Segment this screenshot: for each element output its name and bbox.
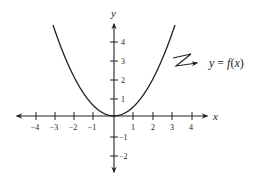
y-tick-label: 3 — [121, 57, 125, 66]
y-tick-label: −1 — [119, 133, 128, 142]
x-tick-label: 4 — [189, 123, 193, 132]
y-axis: 4 3 2 1 −1 −2 y — [110, 7, 128, 172]
x-axis-label: x — [212, 110, 218, 122]
y-tick-label: 1 — [121, 95, 125, 104]
function-graph: −4 −3 −2 −1 1 2 3 4 x 4 — [0, 0, 261, 181]
x-tick-label: 3 — [170, 123, 174, 132]
x-tick-label: 2 — [151, 123, 155, 132]
x-tick-label: 1 — [131, 123, 135, 132]
x-tick-label: −4 — [31, 123, 40, 132]
function-label: y = f(x) — [208, 56, 244, 70]
x-axis: −4 −3 −2 −1 1 2 3 4 x — [17, 110, 218, 132]
y-tick-label: 4 — [121, 38, 125, 47]
y-tick-label: −2 — [119, 152, 128, 161]
y-tick-label: 2 — [121, 76, 125, 85]
x-tick-label: −3 — [50, 123, 59, 132]
x-tick-label: −2 — [69, 123, 78, 132]
squiggle-arrow-icon — [173, 54, 197, 66]
x-tick-label: −1 — [88, 123, 97, 132]
y-axis-label: y — [110, 7, 116, 19]
